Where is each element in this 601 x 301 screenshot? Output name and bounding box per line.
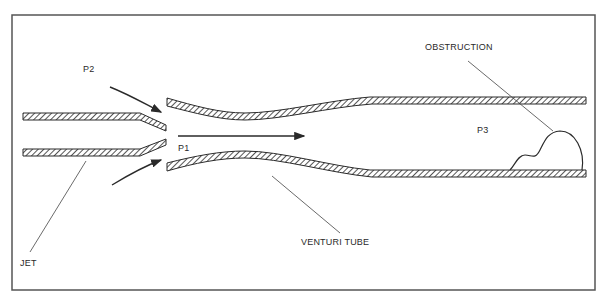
jet-lower-wall <box>23 139 166 156</box>
label-p3: P3 <box>477 125 488 135</box>
label-p1: P1 <box>178 143 189 153</box>
p2-inflow-arrow-bottom <box>112 160 161 185</box>
jet-upper-wall <box>23 113 166 131</box>
venturi-upper-wall <box>167 97 586 120</box>
label-jet: JET <box>20 258 37 268</box>
venturi-diagram <box>0 0 601 301</box>
label-venturi-tube: VENTURI TUBE <box>301 237 369 247</box>
venturi-tube-leader-line <box>272 176 340 233</box>
p2-inflow-arrow-top <box>110 87 161 112</box>
label-obstruction: OBSTRUCTION <box>425 42 493 52</box>
jet-leader-line <box>30 161 86 252</box>
obstruction-leader-line <box>468 61 553 131</box>
obstruction-shape <box>510 131 583 170</box>
label-p2: P2 <box>83 64 94 74</box>
